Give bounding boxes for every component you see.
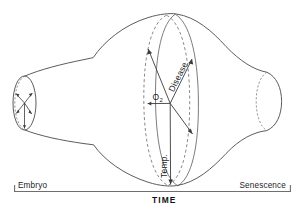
time-axis-label: TIME bbox=[152, 195, 176, 205]
embryo-arrowhead-down bbox=[23, 125, 26, 128]
lower-contour bbox=[25, 130, 267, 186]
upper-contour bbox=[25, 14, 267, 77]
senescence-rim-front bbox=[267, 72, 282, 130]
embryo-label: Embryo bbox=[18, 181, 47, 190]
senescence-label: Senescence bbox=[239, 181, 286, 190]
temperature-vector-arrowhead bbox=[168, 180, 172, 185]
disease-vector-arrowhead bbox=[188, 59, 193, 65]
oxygen-vector-arrowhead bbox=[148, 102, 152, 106]
temperature-vector bbox=[168, 103, 172, 184]
oxygen-label: O bbox=[153, 92, 160, 102]
embryo-vector-group bbox=[16, 93, 33, 129]
life-span-surface-diagram: Embryo Senescence TIME O 2 Disease Temp. bbox=[0, 0, 305, 217]
senescence-end-cap bbox=[256, 72, 281, 130]
oxygen-label-subscript: 2 bbox=[160, 97, 164, 103]
body-silhouette bbox=[25, 14, 267, 186]
diagram-canvas: Embryo Senescence TIME O 2 Disease Temp. bbox=[0, 0, 305, 217]
embryo-arrowhead-downright bbox=[28, 110, 31, 114]
senescence-rim-back bbox=[256, 72, 267, 130]
temperature-label: Temp. bbox=[159, 154, 169, 178]
oxygen-label-group: O 2 bbox=[153, 92, 164, 103]
